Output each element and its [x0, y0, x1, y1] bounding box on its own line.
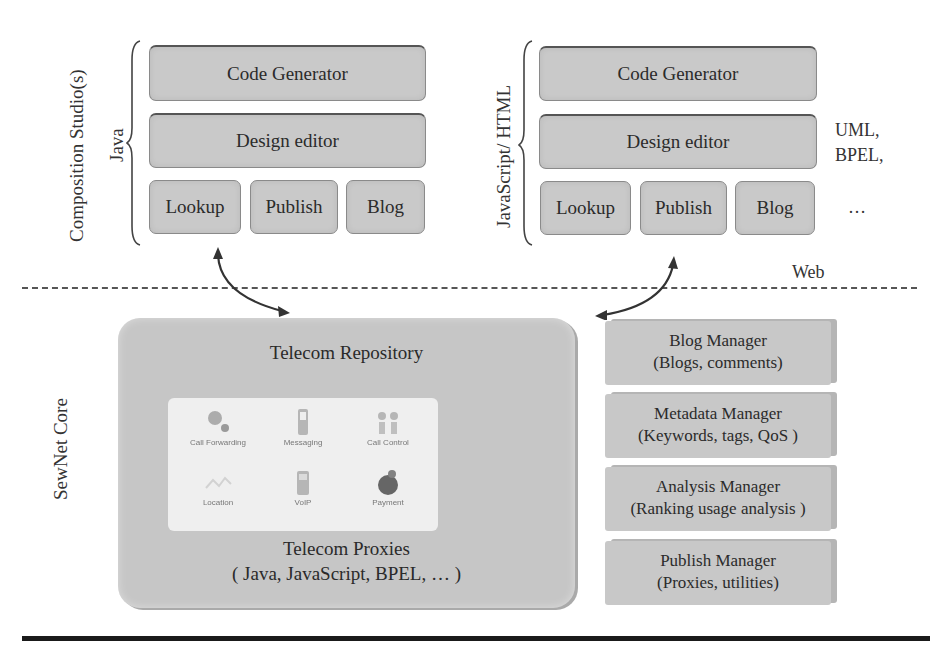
web-boundary-line [22, 287, 917, 289]
java-publish-module: Publish [250, 180, 338, 234]
sewnet-core-label: SewNet Core [50, 398, 72, 500]
location-icon [203, 468, 233, 496]
publish-manager-sub: (Proxies, utilities) [605, 572, 831, 594]
web-label: Web [792, 262, 825, 283]
bottom-rule [22, 636, 930, 641]
java-design-editor: Design editor [149, 113, 426, 168]
publish-manager: Publish Manager (Proxies, utilities) [605, 541, 831, 605]
location-service: Location [173, 468, 263, 528]
telecom-services-panel: Call Forwarding Messaging Call Control L… [168, 398, 438, 531]
js-code-generator-label: Code Generator [618, 63, 739, 85]
call-forwarding-icon [203, 408, 233, 436]
java-blog-label: Blog [367, 196, 404, 218]
voip-service: VoIP [258, 468, 348, 528]
call-control-service: Call Control [343, 408, 433, 468]
js-publish-module: Publish [640, 181, 727, 235]
js-design-editor: Design editor [539, 114, 817, 169]
telecom-proxies-title: Telecom Proxies [118, 536, 575, 561]
js-lookup-label: Lookup [556, 197, 615, 219]
more-ellipsis: … [848, 195, 866, 220]
java-code-generator: Code Generator [149, 45, 426, 101]
payment-label: Payment [343, 498, 433, 507]
bpel-note-line: BPEL, [835, 143, 884, 168]
messaging-service: Messaging [258, 408, 348, 468]
java-stack-label: Java [106, 128, 128, 162]
java-code-generator-label: Code Generator [227, 63, 348, 85]
telecom-repository: Telecom Repository Call Forwarding Messa… [118, 318, 575, 608]
js-code-generator: Code Generator [539, 46, 817, 101]
js-blog-label: Blog [757, 197, 794, 219]
js-stack-label: JavaScript/ HTML [493, 85, 515, 228]
js-brace-icon [518, 40, 534, 246]
java-publish-label: Publish [265, 196, 322, 218]
java-brace-icon [126, 40, 142, 246]
js-blog-module: Blog [735, 181, 815, 235]
call-forwarding-service: Call Forwarding [173, 408, 263, 468]
js-to-core-arrow-icon [585, 255, 685, 320]
java-lookup-label: Lookup [165, 196, 224, 218]
publish-manager-title: Publish Manager [605, 550, 831, 572]
payment-icon [373, 468, 403, 496]
metadata-manager: Metadata Manager (Keywords, tags, QoS ) [605, 394, 831, 458]
call-control-icon [373, 408, 403, 436]
voip-icon [288, 468, 318, 496]
uml-note-line: UML, [835, 118, 884, 143]
js-design-editor-label: Design editor [627, 131, 730, 153]
metadata-manager-sub: (Keywords, tags, QoS ) [605, 425, 831, 447]
messaging-label: Messaging [258, 438, 348, 447]
call-forwarding-label: Call Forwarding [173, 438, 263, 447]
java-to-core-arrow-icon [200, 245, 300, 320]
voip-label: VoIP [258, 498, 348, 507]
composition-studios-label: Composition Studio(s) [66, 69, 88, 242]
telecom-proxies-languages: ( Java, JavaScript, BPEL, … ) [118, 561, 575, 586]
location-label: Location [173, 498, 263, 507]
uml-bpel-note: UML, BPEL, [835, 118, 884, 168]
blog-manager-sub: (Blogs, comments) [605, 352, 831, 374]
telecom-repository-title: Telecom Repository [118, 342, 575, 364]
java-lookup-module: Lookup [149, 180, 241, 234]
blog-manager: Blog Manager (Blogs, comments) [605, 321, 831, 385]
analysis-manager-sub: (Ranking usage analysis ) [605, 498, 831, 520]
call-control-label: Call Control [343, 438, 433, 447]
analysis-manager: Analysis Manager (Ranking usage analysis… [605, 467, 831, 531]
payment-service: Payment [343, 468, 433, 528]
java-design-editor-label: Design editor [236, 130, 339, 152]
analysis-manager-title: Analysis Manager [605, 476, 831, 498]
messaging-icon [288, 408, 318, 436]
js-publish-label: Publish [655, 197, 712, 219]
telecom-proxies: Telecom Proxies ( Java, JavaScript, BPEL… [118, 536, 575, 586]
metadata-manager-title: Metadata Manager [605, 403, 831, 425]
java-blog-module: Blog [346, 180, 425, 234]
js-lookup-module: Lookup [540, 181, 631, 235]
blog-manager-title: Blog Manager [605, 330, 831, 352]
